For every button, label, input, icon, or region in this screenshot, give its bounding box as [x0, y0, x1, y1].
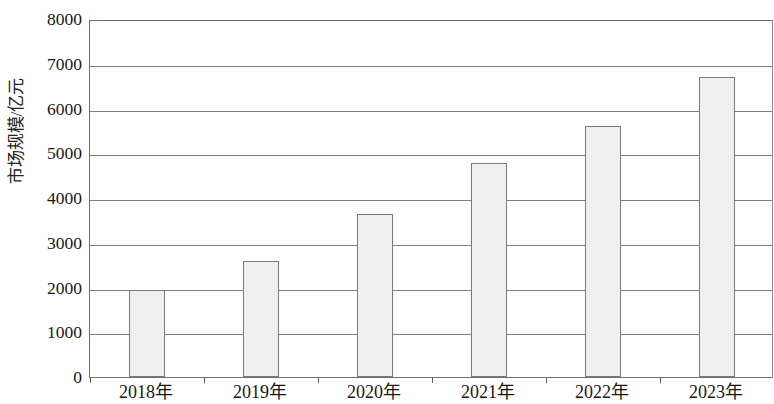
y-axis-tick-label: 6000: [22, 101, 82, 119]
bar-chart: 市场规模/亿元 01000200030004000500060007000800…: [0, 0, 774, 404]
x-axis-tick-labels: 2018年2019年2020年2021年2022年2023年: [89, 380, 773, 404]
y-axis-tick-label: 2000: [22, 280, 82, 298]
bar: [585, 126, 621, 377]
bar-series: [90, 21, 772, 377]
x-axis-tick-label: 2020年: [347, 380, 401, 404]
y-axis-tick-label: 8000: [22, 11, 82, 29]
y-axis-tick-label: 0: [22, 369, 82, 387]
x-axis-tick-label: 2021年: [461, 380, 515, 404]
y-axis-tick-label: 5000: [22, 146, 82, 164]
bar: [357, 214, 393, 377]
y-axis-tick-label: 7000: [22, 56, 82, 74]
bar: [699, 77, 735, 377]
plot-area: [89, 20, 773, 378]
bar: [129, 290, 165, 377]
bar: [243, 261, 279, 377]
bar: [471, 163, 507, 377]
x-axis-tick-label: 2018年: [119, 380, 173, 404]
y-axis-tick-label: 3000: [22, 235, 82, 253]
y-axis-tick-labels: 010002000300040005000600070008000: [22, 0, 82, 404]
x-axis-tick-label: 2022年: [575, 380, 629, 404]
y-axis-tick-label: 1000: [22, 325, 82, 343]
y-axis-tick-label: 4000: [22, 190, 82, 208]
x-axis-tick-label: 2019年: [233, 380, 287, 404]
x-axis-tick-label: 2023年: [689, 380, 743, 404]
